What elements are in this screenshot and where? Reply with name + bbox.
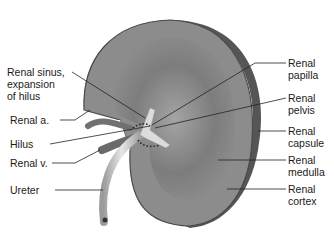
label-renal-sinus: Renal sinus, expansion of hilus bbox=[7, 66, 65, 102]
label-renal-vein: Renal v. bbox=[10, 157, 48, 169]
label-renal-capsule: Renal capsule bbox=[288, 125, 324, 149]
label-renal-medulla: Renal medulla bbox=[288, 154, 325, 178]
kidney-diagram bbox=[0, 0, 334, 235]
label-renal-cortex: Renal cortex bbox=[288, 183, 317, 207]
label-hilus: Hilus bbox=[10, 138, 33, 150]
label-ureter: Ureter bbox=[10, 184, 39, 196]
label-renal-papilla: Renal papilla bbox=[288, 57, 318, 81]
label-renal-artery: Renal a. bbox=[10, 114, 49, 126]
label-renal-pelvis: Renal pelvis bbox=[288, 92, 315, 116]
